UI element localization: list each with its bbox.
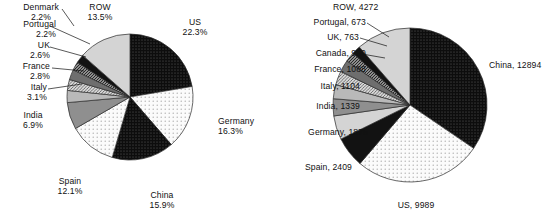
pie-slice-group: [67, 34, 193, 160]
slice-label-china: China, 12894: [489, 60, 553, 70]
slice-label-germany: Germany, 1875: [277, 127, 368, 137]
slice-label-us: US, 9989: [385, 200, 447, 210]
slice-label-spain: Spain 12.1%: [44, 176, 96, 196]
slice-label-spain: Spain, 2409: [277, 162, 352, 172]
slice-label-row: ROW, 4272: [333, 2, 413, 12]
slice-label-india: India 6.9%: [8, 110, 58, 130]
slice-label-france: France, 1088: [277, 64, 366, 74]
slice-label-china: China 15.9%: [134, 190, 190, 210]
slice-label-uk: UK, 763: [277, 32, 359, 42]
slice-label-france: France 2.8%: [0, 61, 50, 81]
slice-label-germany: Germany 16.3%: [218, 116, 274, 136]
slice-label-denmark: Denmark 2.2%: [12, 2, 70, 22]
slice-label-canada: Canada, 950: [277, 48, 366, 58]
slice-label-italy: Italy, 1104: [277, 81, 360, 91]
slice-label-india: India, 1339: [277, 101, 360, 111]
pie-slice-us: [130, 34, 192, 97]
pie-chart-percent: US 22.3% Germany 16.3% China 15.9% Spain…: [0, 0, 276, 224]
slice-label-row: ROW 13.5%: [76, 2, 124, 22]
slice-label-portugal: Portugal, 673: [277, 17, 366, 27]
slice-label-uk: UK 2.6%: [0, 40, 50, 60]
figure-canvas: US 22.3% Germany 16.3% China 15.9% Spain…: [0, 0, 553, 224]
slice-label-italy: Italy 3.1%: [0, 82, 47, 102]
slice-label-us: US 22.3%: [165, 17, 225, 37]
pie-chart-absolute: China, 12894 US, 9989 Spain, 2409 German…: [277, 0, 553, 224]
